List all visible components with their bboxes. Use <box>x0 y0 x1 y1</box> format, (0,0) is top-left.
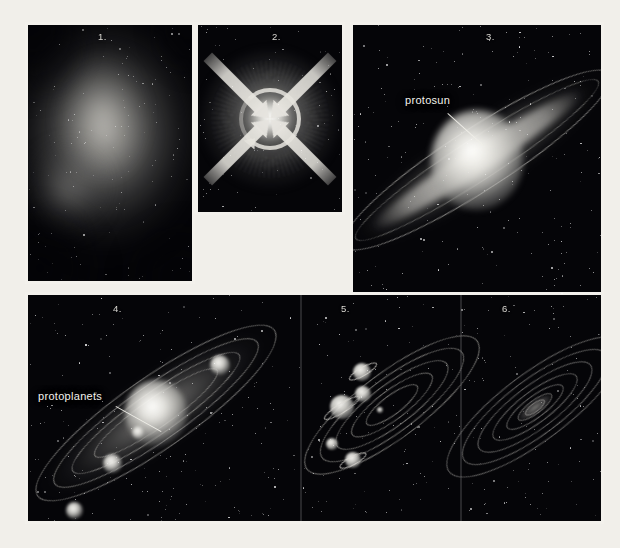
protoplanets-callout: protoplanets <box>38 390 102 402</box>
panel-2-scene <box>198 25 342 212</box>
protoplanet-blob-upper-right <box>210 355 230 375</box>
protoplanet-blob-lower-left <box>66 502 83 519</box>
planet-5-mid <box>355 386 371 402</box>
protoplanet-blob-inner <box>132 426 145 439</box>
panel-bottom-scene: protoplanets 4. 5. <box>28 295 601 521</box>
solar-system-formation-figure: 1. 2. protosun 3. <box>0 0 620 548</box>
panel-6-number: 6. <box>502 303 511 314</box>
planet-5-lower-left <box>326 438 338 450</box>
panel-3-scene: protosun <box>353 25 601 294</box>
nebula-dark-region-bottom-right <box>117 214 192 281</box>
panel-1-nebula: 1. <box>25 22 195 284</box>
nebula-dark-region-bottom-left <box>28 199 110 281</box>
panel-divider-5-6 <box>460 295 462 521</box>
panel-5-number: 5. <box>341 303 350 314</box>
panel-6-mature-system: 6. <box>460 295 601 521</box>
nebula-dark-region-top-right <box>146 25 192 81</box>
planet-5-tiny-inner <box>377 407 383 413</box>
panel-3-number: 3. <box>486 31 495 42</box>
protosun-callout: protosun <box>405 94 450 106</box>
panel-divider-4-5 <box>300 295 302 521</box>
protoplanet-blob-lower-inner <box>103 454 122 473</box>
panel-2-collapsing-cloud: 2. <box>195 22 345 215</box>
protosun-sphere <box>431 110 523 210</box>
nebula-dark-region-top-left <box>28 25 94 107</box>
panel-4-protoplanets: protoplanets 4. <box>28 295 300 521</box>
panel-bottom-strip: protoplanets 4. 5. <box>25 292 604 524</box>
panel-3-protosun-disk: protosun 3. <box>350 22 604 297</box>
panel-2-number: 2. <box>272 31 281 42</box>
panel-1-scene <box>28 25 192 281</box>
panel-4-number: 4. <box>113 303 122 314</box>
panel-1-number: 1. <box>98 31 107 42</box>
panel-5-forming-planets: 5. <box>300 295 460 521</box>
